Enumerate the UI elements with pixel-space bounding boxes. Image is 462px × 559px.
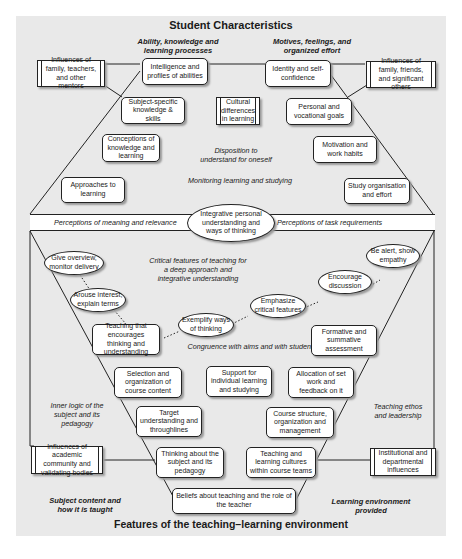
label-monitoring: Monitoring learning and studying: [180, 176, 300, 185]
influences-institutional: Institutional and departmental influence…: [370, 448, 436, 476]
box-personal-goals: Personal and vocational goals: [286, 98, 352, 125]
influences-family-friends: Influences of family, friends, and signi…: [366, 61, 436, 88]
heading-motives: Motives, feelings, and organized effort: [262, 37, 362, 55]
label-meaning-relevance: Perceptions of meaning and relevance: [54, 218, 177, 227]
box-conceptions: Conceptions of knowledge and learning: [102, 134, 160, 162]
box-teaching-encourages: Teaching that encourages thinking and un…: [92, 324, 160, 355]
heading-subject-content: Subject content and how it is taught: [42, 496, 128, 514]
oval-give-overview: Give overview, monitor delivery: [44, 251, 104, 275]
box-formative-summative: Formative and summative assessment: [311, 325, 377, 356]
box-identity: Identity and self-confidence: [265, 60, 331, 87]
box-beliefs: Beliefs about teaching and the role of t…: [172, 488, 296, 514]
box-selection: Selection and organization of course con…: [114, 367, 182, 398]
oval-encourage-discussion: Encourage discussion: [318, 270, 372, 294]
box-study-organisation: Study organisation and effort: [344, 178, 410, 204]
influences-family-teachers: Influences of family, teachers, and othe…: [37, 60, 105, 87]
oval-emphasize: Emphasize critical features: [250, 294, 306, 318]
box-motivation: Motivation and work habits: [313, 136, 377, 163]
heading-ability: Ability, knowledge and learning processe…: [128, 37, 228, 55]
oval-arouse-interest: Arouse interest, explain terms: [70, 288, 126, 312]
title-student-characteristics: Student Characteristics: [0, 19, 462, 31]
box-target-understanding: Target understanding and throughlines: [136, 406, 202, 437]
box-course-structure: Course structure, organization and manag…: [266, 407, 334, 438]
label-disposition: Disposition to understand for oneself: [196, 146, 276, 164]
influences-academic: Influences of academic community and val…: [31, 446, 103, 474]
box-cultural-differences: Cultural differences in learning: [216, 97, 260, 125]
box-approaches: Approaches to learning: [61, 177, 125, 203]
label-critical-features: Critical features of teaching for a deep…: [148, 256, 248, 283]
title-teaching-learning-env: Features of the teaching–learning enviro…: [0, 518, 462, 530]
oval-be-alert: Be alert, show empathy: [366, 244, 420, 268]
oval-exemplify: Exemplify ways of thinking: [178, 313, 234, 337]
box-support: Support for individual learning and stud…: [206, 366, 272, 397]
label-congruence: Congruence with aims and with students: [182, 342, 322, 351]
heading-learning-env: Learning environment provided: [326, 497, 416, 515]
box-allocation: Allocation of set work and feedback on i…: [288, 367, 354, 398]
oval-integrative-understanding: Integrative personal understanding and w…: [187, 204, 275, 242]
box-teaching-cultures: Teaching and learning cultures within co…: [246, 447, 316, 478]
box-thinking-about: Thinking about the subject and its pedag…: [156, 447, 224, 478]
label-task-requirements: Perceptions of task requirements: [277, 218, 382, 227]
box-subject-specific: Subject-specific knowledge & skills: [121, 97, 185, 124]
box-intelligence: Intelligence and profiles of abilities: [142, 58, 208, 85]
label-teaching-ethos: Teaching ethos and leadership: [368, 402, 428, 420]
label-inner-logic: Inner logic of the subject and its pedag…: [48, 401, 106, 428]
